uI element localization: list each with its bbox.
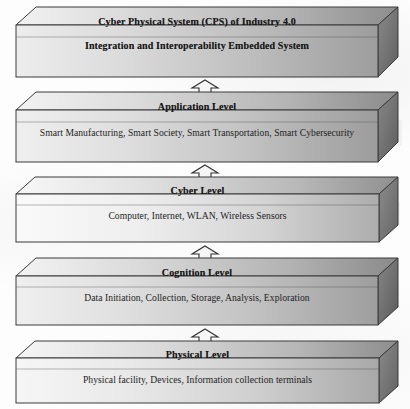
- block-shape-cognition-level: [16, 258, 398, 328]
- block-cyber-level[interactable]: Cyber Level Computer, Internet, WLAN, Wi…: [16, 177, 398, 245]
- block-application-level[interactable]: Application Level Smart Manufacturing, S…: [16, 92, 398, 164]
- block-shape-physical-level: [16, 341, 398, 405]
- block-physical-level[interactable]: Physical Level Physical facility, Device…: [16, 341, 398, 405]
- block-cps-header[interactable]: Cyber Physical System (CPS) of Industry …: [16, 7, 398, 79]
- block-shape-cyber-level: [16, 177, 398, 245]
- cps-layered-diagram: Cyber Physical System (CPS) of Industry …: [0, 0, 410, 409]
- block-cognition-level[interactable]: Cognition Level Data Initiation, Collect…: [16, 258, 398, 328]
- block-shape-cps-header: [16, 7, 398, 79]
- block-shape-application-level: [16, 92, 398, 164]
